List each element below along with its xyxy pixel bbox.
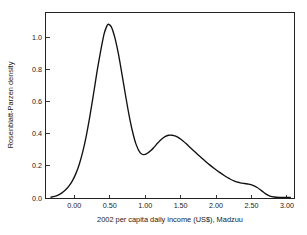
y-tick-label: 0.8 <box>32 65 42 74</box>
x-tick-label: 0.00 <box>67 201 81 210</box>
x-tick-label: 1.50 <box>174 201 188 210</box>
y-tick-label: 0.0 <box>32 194 42 203</box>
x-tick-label: 3.00 <box>280 201 294 210</box>
chart-canvas: 0.000.501.001.502.002.503.00 0.00.20.40.… <box>0 0 307 235</box>
y-tick-label: 1.0 <box>32 33 42 42</box>
x-tick-label: 2.00 <box>209 201 223 210</box>
y-tick-label: 0.6 <box>32 97 42 106</box>
x-tick-label: 1.00 <box>138 201 152 210</box>
x-tick-label: 2.50 <box>244 201 258 210</box>
x-tick-label: 0.50 <box>103 201 117 210</box>
y-axis-title: Rosenblatt-Parzen density <box>6 61 15 148</box>
chart-background <box>0 0 307 235</box>
y-tick-label: 0.2 <box>32 161 42 170</box>
x-axis-title: 2002 per capita daily income (US$), Madz… <box>97 215 243 224</box>
y-tick-label: 0.4 <box>32 129 42 138</box>
density-chart-figure: 0.000.501.001.502.002.503.00 0.00.20.40.… <box>0 0 307 235</box>
